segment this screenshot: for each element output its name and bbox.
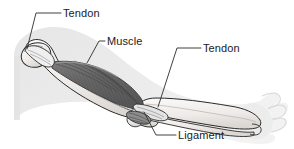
- label-tendon-upper: Tendon: [63, 7, 100, 19]
- anatomy-figure: Tendon Muscle Tendon Ligament: [0, 0, 294, 149]
- anatomy-illustration: [0, 0, 294, 149]
- label-ligament: Ligament: [178, 129, 224, 141]
- label-tendon-lower: Tendon: [203, 42, 240, 54]
- label-muscle: Muscle: [107, 35, 142, 47]
- shoulder-cut-edge: [14, 56, 20, 120]
